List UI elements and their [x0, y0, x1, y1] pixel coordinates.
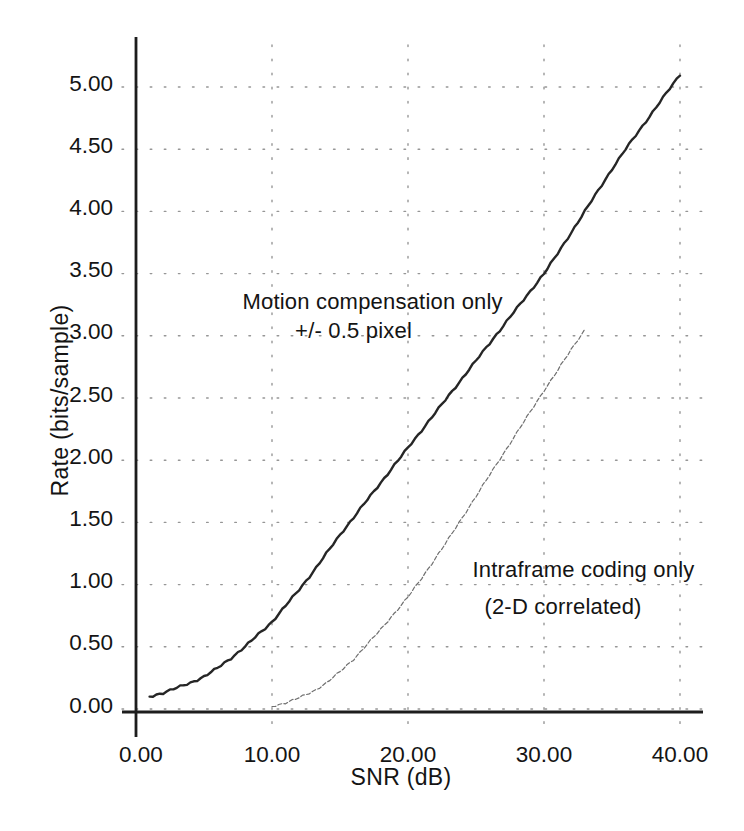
y-tick-label: 2.00	[69, 444, 113, 469]
x-tick-label: 40.00	[652, 742, 708, 767]
y-tick-label: 3.50	[69, 257, 113, 282]
annotation-line: Motion compensation only	[242, 289, 502, 315]
grid	[122, 45, 703, 734]
y-tick-label: 5.00	[69, 71, 113, 96]
tick-labels: 0.000.501.001.502.002.503.003.504.004.50…	[69, 71, 708, 768]
x-tick-label: 0.00	[119, 742, 163, 767]
y-tick-label: 4.00	[69, 195, 113, 220]
x-axis-title: SNR (dB)	[256, 764, 546, 791]
y-axis-title: Rate (bits/sample)	[47, 286, 74, 516]
rate-snr-chart: 0.000.501.001.502.002.503.003.504.004.50…	[0, 0, 744, 831]
series-intraframe	[272, 329, 585, 706]
y-tick-label: 1.00	[69, 568, 113, 593]
y-tick-label: 1.50	[69, 506, 113, 531]
annotation-line: Intraframe coding only	[472, 557, 694, 583]
axes	[122, 37, 703, 737]
annotation-line: +/- 0.5 pixel	[295, 318, 412, 344]
y-tick-label: 2.50	[69, 382, 113, 407]
y-tick-label: 4.50	[69, 133, 113, 158]
annotation-line: (2-D correlated)	[484, 594, 641, 620]
y-tick-label: 3.00	[69, 319, 113, 344]
y-tick-label: 0.00	[69, 693, 113, 718]
figure-rate-vs-snr: 0.000.501.001.502.002.503.003.504.004.50…	[0, 0, 744, 831]
y-tick-label: 0.50	[69, 630, 113, 655]
